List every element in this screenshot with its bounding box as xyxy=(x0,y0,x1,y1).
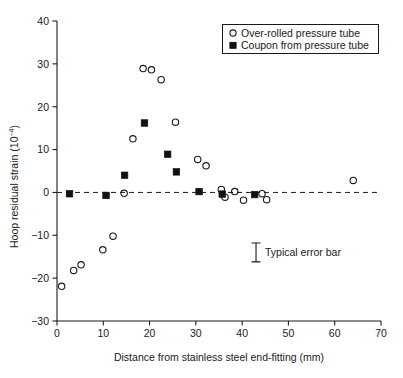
x-tick-label-20: 20 xyxy=(144,327,156,339)
data-point-open-circle xyxy=(78,262,84,268)
x-tick-label-70: 70 xyxy=(375,327,387,339)
legend-label-coupon: Coupon from pressure tube xyxy=(241,39,369,51)
y-axis-title-text: Hoop residual strain (10−4) xyxy=(8,125,20,248)
data-point-open-circle xyxy=(195,156,201,162)
x-tick-label-10: 10 xyxy=(97,327,109,339)
data-point-open-circle xyxy=(350,177,356,183)
data-point-filled-square xyxy=(219,191,226,198)
x-tick-label-30: 30 xyxy=(190,327,202,339)
data-point-filled-square xyxy=(251,191,258,198)
x-tick-label-60: 60 xyxy=(329,327,341,339)
x-axis-title-text: Distance from stainless steel end-fittin… xyxy=(114,351,324,363)
y-tick-label--10: −10 xyxy=(31,229,49,241)
data-point-filled-square xyxy=(66,190,73,197)
data-point-filled-square xyxy=(173,169,180,176)
legend-label-over-rolled: Over-rolled pressure tube xyxy=(241,27,360,39)
data-point-filled-square xyxy=(121,172,128,179)
data-point-open-circle xyxy=(263,197,269,203)
data-point-filled-square xyxy=(103,192,110,199)
data-point-open-circle xyxy=(140,65,146,71)
legend: Over-rolled pressure tube Coupon from pr… xyxy=(223,25,379,54)
error-bar-label: Typical error bar xyxy=(265,246,341,258)
y-tick-label-30: 30 xyxy=(37,58,49,70)
x-axis-ticks: 010203040506070 xyxy=(54,321,387,339)
chart-figure: −30−20−10010203040 010203040506070 Hoop … xyxy=(0,0,403,378)
data-point-filled-square xyxy=(141,120,148,127)
data-point-open-circle xyxy=(130,136,136,142)
y-tick-label--20: −20 xyxy=(31,272,49,284)
data-point-open-circle xyxy=(259,191,265,197)
data-point-open-circle xyxy=(148,67,154,73)
data-point-open-circle xyxy=(232,188,238,194)
y-axis-ticks: −30−20−10010203040 xyxy=(31,15,57,327)
y-tick-label-20: 20 xyxy=(37,101,49,113)
x-tick-label-40: 40 xyxy=(236,327,248,339)
error-bar-icon xyxy=(252,243,261,262)
data-point-filled-square xyxy=(164,151,171,158)
y-tick-label-40: 40 xyxy=(37,15,49,27)
data-point-filled-square xyxy=(196,188,203,195)
data-point-open-circle xyxy=(100,247,106,253)
y-axis-title-exponent: −4 xyxy=(8,128,15,136)
data-point-open-circle xyxy=(203,163,209,169)
scatter-plot-svg: −30−20−10010203040 010203040506070 Hoop … xyxy=(0,0,403,378)
data-point-open-circle xyxy=(172,119,178,125)
series-coupon-from-pressure-tube xyxy=(66,120,258,199)
y-tick-label-0: 0 xyxy=(43,186,49,198)
y-axis-title: Hoop residual strain (10−4) xyxy=(8,125,20,248)
typical-error-bar-annotation: Typical error bar xyxy=(252,243,342,262)
legend-marker-filled-square-icon xyxy=(230,42,236,48)
y-axis-title-tail: ) xyxy=(8,125,20,129)
data-point-open-circle xyxy=(158,77,164,83)
data-point-open-circle xyxy=(110,233,116,239)
x-tick-label-50: 50 xyxy=(283,327,295,339)
data-point-open-circle xyxy=(121,190,127,196)
data-point-open-circle xyxy=(240,197,246,203)
y-tick-label-10: 10 xyxy=(37,143,49,155)
y-axis-title-base: Hoop residual strain (10 xyxy=(8,136,20,248)
data-point-open-circle xyxy=(58,283,64,289)
x-tick-label-0: 0 xyxy=(54,327,60,339)
y-tick-label--30: −30 xyxy=(31,315,49,327)
axis-frame xyxy=(57,21,381,321)
data-point-open-circle xyxy=(70,267,76,273)
